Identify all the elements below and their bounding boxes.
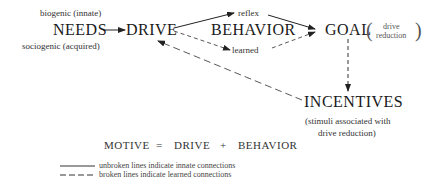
- needs-sociogenic-label: sociogenic (acquired): [22, 42, 100, 51]
- equation-drive: DRIVE: [174, 140, 210, 151]
- legend-solid-text: unbroken lines indicate innate connectio…: [99, 162, 235, 170]
- drive-node: DRIVE: [126, 22, 177, 38]
- goal-note-line2: reduction: [376, 32, 406, 40]
- behavior-node: BEHAVIOR: [211, 22, 296, 38]
- behavior-reflex-label: reflex: [238, 9, 259, 18]
- legend-dashed-text: broken lines indicate learned connection…: [99, 171, 231, 179]
- equation-equals: =: [156, 140, 163, 151]
- goal-note-line1: drive: [383, 23, 399, 31]
- incentives-note-line2: drive reduction): [318, 129, 376, 138]
- behavior-learned-label: learned: [232, 46, 258, 55]
- equation-behavior: BEHAVIOR: [238, 140, 297, 151]
- equation-plus: +: [220, 140, 227, 151]
- equation-motive: MOTIVE: [104, 140, 150, 151]
- goal-paren-close: ): [415, 20, 422, 40]
- goal-node: GOAL: [325, 22, 371, 38]
- needs-node: NEEDS: [53, 22, 107, 38]
- incentives-note-line1: (stimuli associated with: [305, 117, 391, 126]
- goal-paren-open: (: [366, 20, 373, 40]
- incentives-node: INCENTIVES: [304, 94, 403, 110]
- needs-biogenic-label: biogenic (innate): [40, 9, 101, 18]
